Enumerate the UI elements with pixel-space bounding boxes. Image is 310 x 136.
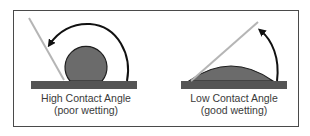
substrate-left <box>31 81 137 89</box>
tangent-line-high <box>29 18 64 80</box>
substrate-right <box>181 81 287 89</box>
low-contact-angle-panel <box>181 22 287 89</box>
caption-low-title: Low Contact Angle <box>164 92 304 104</box>
high-contact-angle-panel <box>29 18 137 89</box>
caption-high-title: High Contact Angle <box>16 92 156 104</box>
caption-low-contact-angle: Low Contact Angle (good wetting) <box>164 92 304 116</box>
caption-low-subtitle: (good wetting) <box>164 104 304 116</box>
caption-high-contact-angle: High Contact Angle (poor wetting) <box>16 92 156 116</box>
droplet-low <box>189 66 273 81</box>
angle-arrow-low-icon <box>261 31 278 81</box>
caption-high-subtitle: (poor wetting) <box>16 104 156 116</box>
droplet-high <box>65 46 107 81</box>
